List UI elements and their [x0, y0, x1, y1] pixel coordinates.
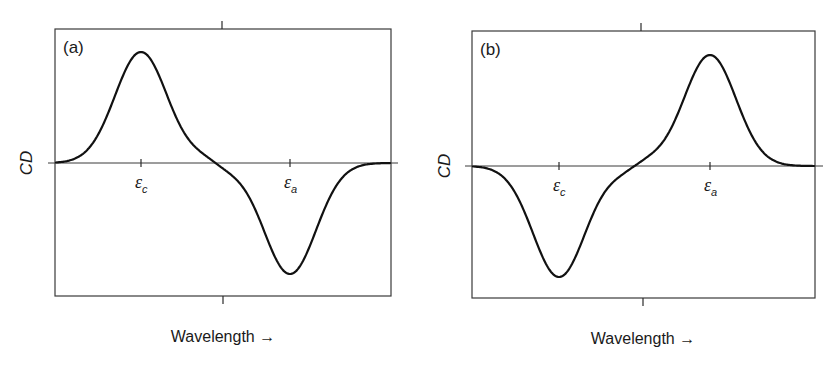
svg-text:c: c — [560, 186, 566, 198]
tick-label-epsilon-a: ε a — [284, 172, 297, 195]
plot-frame — [472, 31, 815, 298]
panel-label: (a) — [63, 38, 84, 57]
x-axis-label: Wavelength → — [591, 330, 695, 347]
svg-text:a: a — [711, 186, 717, 198]
y-axis-label: CD — [435, 154, 454, 179]
svg-text:c: c — [142, 183, 148, 195]
panel-a: (a) CD Wavelength → ε c ε a — [17, 21, 398, 345]
svg-text:a: a — [291, 183, 297, 195]
x-axis-label: Wavelength → — [171, 328, 275, 345]
panel-b: (b) CD Wavelength → ε c ε a — [435, 23, 823, 347]
y-axis-label: CD — [17, 151, 36, 176]
tick-label-epsilon-a: ε a — [704, 175, 717, 198]
cd-spectra-figure: (a) CD Wavelength → ε c ε a (b) CD Wavel… — [0, 0, 836, 370]
tick-label-epsilon-c: ε c — [553, 175, 566, 198]
panel-label: (b) — [480, 40, 501, 59]
tick-label-epsilon-c: ε c — [135, 172, 148, 195]
